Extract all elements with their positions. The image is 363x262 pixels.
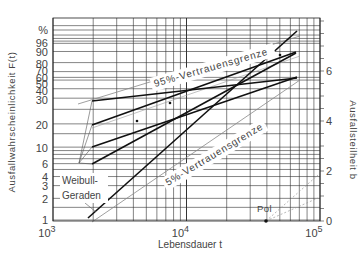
y-tick-label: 20	[36, 119, 48, 131]
y-tick-label: 6	[42, 158, 48, 170]
weibull-label-1: Weibull-	[62, 175, 98, 186]
pol-point	[264, 219, 268, 223]
y-axis-right: 0246	[320, 21, 332, 227]
pol-label: Pol	[257, 203, 272, 214]
y2-tick-label: 6	[326, 65, 332, 77]
x-tick-label: 104	[172, 224, 189, 239]
y-tick-label: %	[38, 24, 48, 36]
x-axis-label: Lebensdauer t	[158, 239, 222, 250]
y-tick-label: 3	[42, 180, 48, 192]
data-point	[169, 102, 172, 105]
y-tick-label: 10	[36, 142, 48, 154]
y-axis-left: %9690807060504030201064321	[36, 24, 48, 226]
y2-tick-label: 4	[326, 115, 332, 127]
weibull-chart: %9690807060504030201064321 0246 10310410…	[0, 0, 363, 262]
y2-axis-label: Ausfallsteilheit b	[348, 100, 359, 179]
x-tick-label: 105	[305, 224, 322, 239]
y-tick-label: 1	[42, 214, 48, 226]
weibull-label-2: Geraden	[62, 190, 101, 201]
x-axis: 103104105	[38, 224, 322, 239]
data-point	[279, 54, 282, 57]
x-tick-label: 103	[38, 224, 55, 239]
y-tick-label: 30	[36, 94, 48, 106]
y-axis-label: Ausfallwahrscheinlichkeit F(t)	[6, 51, 17, 192]
y2-tick-label: 0	[326, 215, 332, 227]
y-tick-label: 90	[36, 46, 48, 58]
y2-tick-label: 2	[326, 165, 332, 177]
data-point	[136, 120, 139, 123]
y-tick-label: 2	[42, 193, 48, 205]
